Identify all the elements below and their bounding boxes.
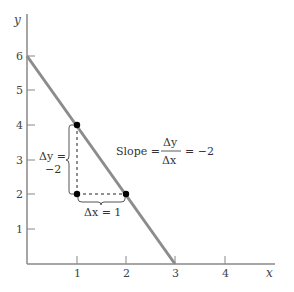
- svg-text:3: 3: [172, 267, 179, 280]
- point-2-2: [123, 191, 129, 197]
- svg-text:3: 3: [16, 154, 23, 167]
- x-ticks: [77, 256, 225, 264]
- svg-text:2: 2: [16, 188, 23, 201]
- y-tick-labels: 1 2 3 4 5 6: [16, 50, 23, 236]
- svg-text:1: 1: [16, 223, 23, 236]
- svg-text:2: 2: [123, 267, 130, 280]
- point-1-2: [74, 191, 80, 197]
- slope-prefix: Slope =: [116, 145, 160, 158]
- delta-y-label: Δy =: [39, 150, 66, 163]
- svg-text:4: 4: [222, 267, 229, 280]
- slope-result: = −2: [185, 145, 214, 158]
- x-tick-labels: 1 2 3 4: [74, 267, 229, 280]
- slope-numerator: Δy: [163, 136, 178, 149]
- svg-text:6: 6: [16, 50, 23, 63]
- slope-denominator: Δx: [162, 154, 177, 167]
- svg-text:4: 4: [16, 119, 23, 132]
- delta-y-value: −2: [45, 163, 61, 176]
- y-axis-label: y: [13, 13, 21, 27]
- y-ticks: [27, 56, 35, 229]
- svg-text:5: 5: [16, 84, 23, 97]
- delta-y-bracket: [66, 125, 75, 194]
- delta-x-label: Δx = 1: [84, 206, 121, 219]
- x-axis-label: x: [266, 266, 273, 280]
- point-1-4: [74, 122, 80, 128]
- delta-x-bracket: [78, 197, 125, 205]
- svg-text:1: 1: [74, 267, 81, 280]
- slope-chart: y x 1 2 3 4 5 6 1 2 3 4 Δy: [0, 0, 294, 292]
